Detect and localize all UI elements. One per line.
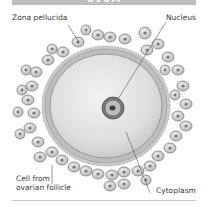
label-cytoplasm: Cytoplasm [156,186,196,195]
nucleus-shape [102,97,124,119]
label-zona-pellucida: Zona pellucida [12,13,67,22]
bottom-divider [12,200,196,201]
label-cell-from-follicle-line2: ovarian follicle [16,183,71,192]
label-cell-from-follicle-line1: Cell from [16,174,50,183]
label-nucleus: Nucleus [166,13,196,22]
